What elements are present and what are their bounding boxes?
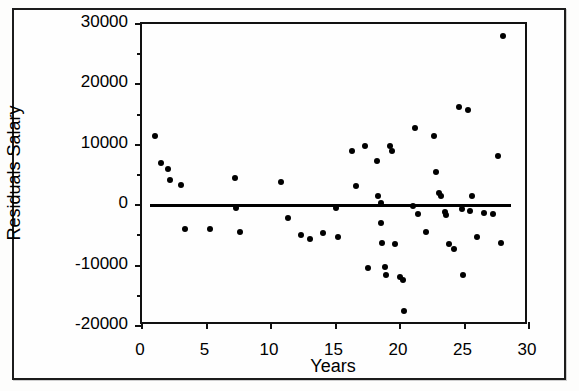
figure-canvas: Residuals Salary Years -20000-1000001000…: [0, 0, 579, 391]
data-point: [474, 234, 480, 240]
data-point: [178, 182, 184, 188]
y-axis-title: Residuals Salary: [4, 105, 25, 240]
data-point: [498, 240, 504, 246]
zero-reference-line: [150, 204, 511, 207]
data-point: [379, 240, 385, 246]
data-point: [374, 158, 380, 164]
data-point: [365, 265, 371, 271]
x-tick-mark: [206, 322, 208, 329]
data-point: [349, 148, 355, 154]
y-minor-tick-mark: [137, 53, 142, 55]
data-point: [481, 210, 487, 216]
y-tick-mark: [135, 204, 142, 206]
y-tick-mark: [135, 23, 142, 25]
data-point: [382, 264, 388, 270]
data-point: [456, 104, 462, 110]
x-tick-mark: [335, 322, 337, 329]
data-point: [495, 153, 501, 159]
data-point: [158, 160, 164, 166]
data-point: [469, 193, 475, 199]
data-point: [392, 241, 398, 247]
x-tick-label: 25: [453, 340, 472, 360]
plot-area: [140, 22, 527, 324]
y-tick-label: -20000: [0, 314, 128, 334]
data-point: [278, 179, 284, 185]
y-minor-tick-mark: [137, 295, 142, 297]
data-point: [335, 234, 341, 240]
data-point: [320, 230, 326, 236]
x-tick-label: 0: [135, 340, 144, 360]
y-tick-label: -10000: [0, 254, 128, 274]
y-minor-tick-mark: [137, 234, 142, 236]
data-point: [465, 107, 471, 113]
data-point: [460, 272, 466, 278]
data-point: [362, 143, 368, 149]
data-point: [500, 33, 506, 39]
y-tick-mark: [135, 83, 142, 85]
data-point: [415, 211, 421, 217]
data-point: [237, 229, 243, 235]
data-point: [451, 246, 457, 252]
data-point: [182, 226, 188, 232]
data-point: [389, 148, 395, 154]
data-point: [438, 193, 444, 199]
x-tick-label: 5: [200, 340, 209, 360]
data-point: [446, 241, 452, 247]
x-tick-mark: [141, 322, 143, 329]
data-point: [353, 183, 359, 189]
y-tick-label: 20000: [0, 72, 128, 92]
data-point: [207, 226, 213, 232]
x-axis-title: Years: [310, 356, 355, 377]
x-tick-mark: [270, 322, 272, 329]
x-tick-label: 10: [260, 340, 279, 360]
data-point: [400, 277, 406, 283]
data-point: [423, 229, 429, 235]
y-tick-label: 30000: [0, 12, 128, 32]
data-point: [167, 177, 173, 183]
data-point: [165, 166, 171, 172]
y-tick-mark: [135, 144, 142, 146]
data-point: [467, 208, 473, 214]
data-point: [431, 133, 437, 139]
data-point: [412, 125, 418, 131]
data-point: [383, 272, 389, 278]
data-point: [459, 206, 465, 212]
data-point: [152, 133, 158, 139]
y-minor-tick-mark: [137, 174, 142, 176]
data-point: [401, 308, 407, 314]
x-tick-mark: [399, 322, 401, 329]
x-tick-mark: [528, 322, 530, 329]
data-point: [378, 220, 384, 226]
data-point: [307, 236, 313, 242]
x-tick-mark: [464, 322, 466, 329]
y-tick-mark: [135, 265, 142, 267]
data-point: [285, 215, 291, 221]
x-tick-label: 30: [518, 340, 537, 360]
data-point: [375, 193, 381, 199]
y-minor-tick-mark: [137, 114, 142, 116]
x-tick-label: 20: [389, 340, 408, 360]
data-point: [433, 169, 439, 175]
data-point: [232, 175, 238, 181]
data-point: [490, 211, 496, 217]
data-point: [443, 212, 449, 218]
data-point: [298, 232, 304, 238]
